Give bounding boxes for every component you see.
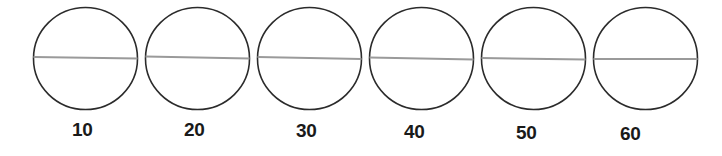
- circles-diagram: [0, 0, 722, 156]
- diameter-line-40: [370, 58, 474, 60]
- diameter-line-50: [482, 58, 586, 60]
- circle-label-60: 60: [620, 124, 641, 143]
- circle-label-50: 50: [516, 123, 537, 142]
- diameter-line-30: [258, 57, 362, 59]
- circle-label-30: 30: [296, 121, 317, 140]
- diameter-line-20: [146, 57, 250, 59]
- figure-canvas: 102030405060: [0, 0, 722, 156]
- circle-label-40: 40: [404, 122, 425, 141]
- diameter-line-10: [34, 57, 138, 59]
- circle-label-20: 20: [184, 120, 205, 139]
- circle-label-10: 10: [72, 120, 93, 139]
- circle-group: [34, 8, 698, 110]
